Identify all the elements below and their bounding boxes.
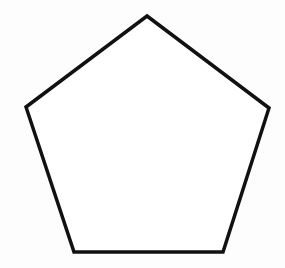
diagram-canvas bbox=[0, 0, 285, 268]
pentagon-shape bbox=[26, 16, 269, 252]
pentagon-diagram bbox=[0, 0, 285, 268]
